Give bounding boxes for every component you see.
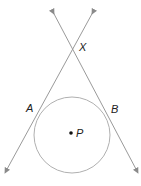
label-p: P [76,127,84,139]
label-x: X [78,41,87,53]
label-a: A [25,102,33,114]
circle-p [34,97,110,173]
diagram-canvas: X A B P [0,0,141,186]
center-point-p [69,131,73,135]
tangent-line-b [53,12,137,171]
label-b: B [111,103,118,115]
tangent-line-a [6,12,93,171]
